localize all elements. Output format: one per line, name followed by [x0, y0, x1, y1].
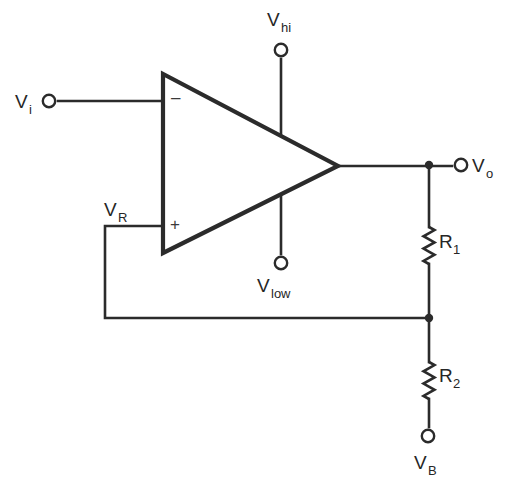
- junction-divider-node: [425, 314, 433, 322]
- non-inverting-input-sign: +: [170, 215, 180, 234]
- terminal-vhi-label: V: [267, 9, 280, 30]
- terminal-vi-label-subscript: i: [29, 102, 32, 117]
- wire-feedback-from-plus-input: [105, 226, 429, 318]
- op-amp-triangle: [163, 74, 338, 253]
- terminal-vi-node: [43, 95, 55, 107]
- feedback-node-label-subscript: R: [118, 210, 127, 225]
- inverting-input-sign: –: [171, 88, 181, 107]
- circuit-schematic: ViVhiVlowVoVBR1R2VR–+: [0, 0, 509, 480]
- op-amp-group: [163, 74, 338, 253]
- resistor-r1: [424, 227, 435, 264]
- terminals-group: [43, 44, 467, 442]
- terminal-vb-label: V: [414, 452, 427, 473]
- terminal-vo-node: [455, 159, 467, 171]
- terminal-vlow-label: V: [257, 275, 270, 296]
- resistor-r2-label-subscript: 2: [453, 376, 460, 391]
- labels-group: ViVhiVlowVoVBR1R2VR–+: [15, 9, 493, 478]
- terminal-vhi-node: [275, 44, 287, 56]
- resistor-r2-label: R: [439, 365, 453, 386]
- feedback-node-label: V: [104, 199, 117, 220]
- circuit-diagram-canvas: ViVhiVlowVoVBR1R2VR–+: [0, 0, 509, 480]
- terminal-vlow-label-subscript: low: [271, 286, 291, 301]
- resistor-r2: [424, 362, 435, 399]
- resistor-r1-label: R: [439, 231, 453, 252]
- resistor-r1-label-subscript: 1: [453, 242, 460, 257]
- terminal-vb-label-subscript: B: [428, 463, 437, 478]
- terminal-vb-node: [422, 430, 434, 442]
- wires-group: [58, 59, 452, 427]
- terminal-vo-label-subscript: o: [486, 166, 493, 181]
- terminal-vo-label: V: [472, 155, 485, 176]
- terminal-vhi-label-subscript: hi: [281, 20, 291, 35]
- terminal-vi-label: V: [15, 91, 28, 112]
- terminal-vlow-node: [275, 257, 287, 269]
- junction-output-node: [425, 161, 433, 169]
